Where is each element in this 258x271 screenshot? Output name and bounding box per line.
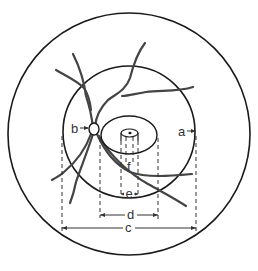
arrow-d-right bbox=[153, 213, 158, 217]
label-f: f bbox=[127, 159, 131, 174]
label-c: c bbox=[125, 220, 132, 235]
label-e: e bbox=[126, 186, 133, 201]
foveola-dot bbox=[128, 132, 131, 134]
label-b: b bbox=[71, 121, 78, 136]
arrow-c-right bbox=[191, 226, 196, 230]
arrow-b bbox=[84, 126, 89, 130]
vessel-upper-right bbox=[122, 87, 193, 96]
vessel-top bbox=[95, 43, 145, 126]
vessel-far-left bbox=[56, 70, 91, 110]
arrow-d-left bbox=[100, 213, 105, 217]
label-d: d bbox=[127, 207, 134, 222]
fundus-diagram: a b c d e f bbox=[0, 0, 258, 271]
vessel-upper-left bbox=[73, 54, 93, 128]
arrow-c-left bbox=[62, 226, 67, 230]
fovea bbox=[121, 129, 138, 141]
label-a: a bbox=[178, 124, 186, 139]
optic-disc bbox=[89, 123, 99, 135]
